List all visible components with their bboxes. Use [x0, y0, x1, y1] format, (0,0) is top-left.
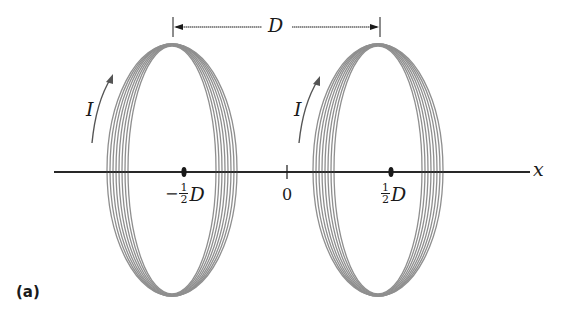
- separation-label: D: [268, 14, 283, 36]
- dimension-arrow-right-icon: [370, 24, 379, 30]
- current-arrow-left-icon: [92, 78, 111, 143]
- helmholtz-diagram: [0, 0, 562, 324]
- left-coil: [107, 44, 237, 296]
- left-coil-center-dot: [181, 167, 186, 177]
- current-label-right: I: [294, 98, 302, 120]
- dimension-arrow-left-icon: [174, 24, 183, 30]
- panel-label: (a): [16, 283, 40, 301]
- right-coil-center-dot: [388, 167, 393, 177]
- tick-label-left: − 1 2 D: [165, 182, 205, 205]
- tick-left-sign: −: [165, 184, 178, 203]
- right-coil: [313, 44, 443, 296]
- axis-label-x: x: [533, 158, 544, 180]
- tick-label-right: 1 2 D: [380, 182, 406, 205]
- current-label-left: I: [86, 98, 94, 120]
- tick-label-origin: 0: [282, 185, 292, 204]
- tick-left-fraction: 1 2: [179, 182, 188, 205]
- tick-right-fraction: 1 2: [381, 182, 390, 205]
